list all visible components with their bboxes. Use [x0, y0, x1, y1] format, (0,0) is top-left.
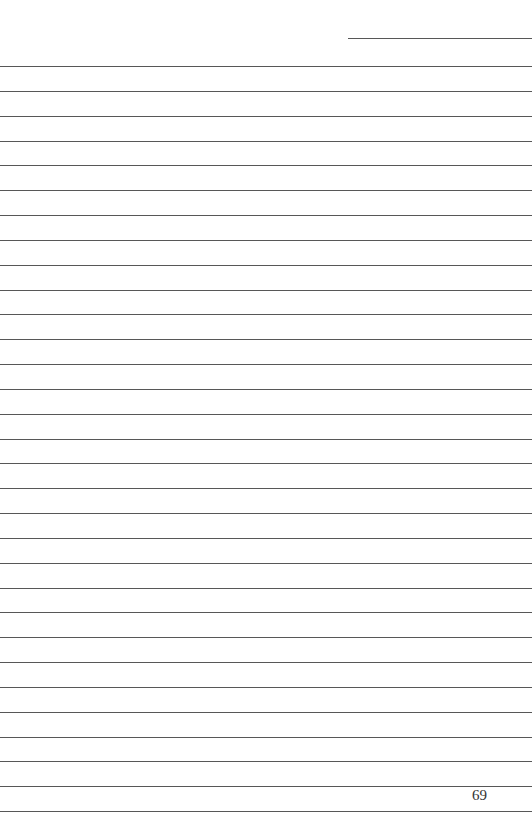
ruled-line	[0, 637, 532, 638]
ruled-line	[0, 538, 532, 539]
ruled-line	[0, 165, 532, 166]
ruled-line	[0, 513, 532, 514]
ruled-line	[0, 190, 532, 191]
ruled-line	[0, 339, 532, 340]
ruled-line	[0, 414, 532, 415]
ruled-line	[0, 761, 532, 762]
ruled-line	[0, 662, 532, 663]
ruled-line	[0, 737, 532, 738]
ruled-line	[0, 687, 532, 688]
ruled-line	[0, 488, 532, 489]
ruled-line	[0, 439, 532, 440]
ruled-line	[0, 364, 532, 365]
ruled-line	[0, 463, 532, 464]
ruled-line	[0, 290, 532, 291]
ruled-line	[0, 389, 532, 390]
ruled-line	[0, 215, 532, 216]
ruled-line	[0, 141, 532, 142]
page-number: 69	[472, 787, 487, 804]
header-line	[348, 38, 532, 39]
ruled-line	[0, 116, 532, 117]
ruled-line	[0, 265, 532, 266]
ruled-line	[0, 588, 532, 589]
ruled-line	[0, 314, 532, 315]
ruled-line	[0, 786, 532, 787]
ruled-line	[0, 712, 532, 713]
ruled-line	[0, 91, 532, 92]
ruled-line	[0, 612, 532, 613]
ruled-line	[0, 66, 532, 67]
ruled-line	[0, 240, 532, 241]
ruled-line	[0, 811, 532, 812]
ruled-line	[0, 563, 532, 564]
